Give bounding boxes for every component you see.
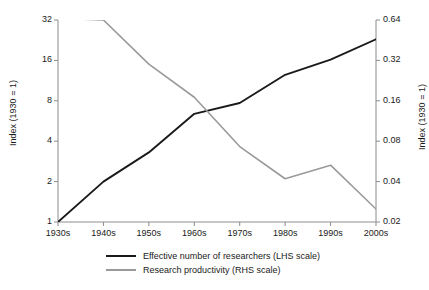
right-tick-label-1: 0.32 (383, 55, 417, 64)
right-tick-label-2: 0.16 (383, 96, 417, 105)
x-tick-label-3: 1960s (172, 229, 216, 238)
right-tick-label-3: 0.08 (383, 136, 417, 145)
legend-label-0: Effective number of researchers (LHS sca… (143, 251, 320, 261)
right-tick-label-0: 0.64 (383, 15, 417, 24)
series-line-0 (58, 39, 376, 222)
right-tick-label-5: 0.02 (383, 217, 417, 226)
legend-line-icon-1 (106, 269, 136, 271)
legend-item-0: Effective number of researchers (LHS sca… (106, 249, 320, 263)
chart-figure: Index (1930 = 1) Index (1930 = 1) 321684… (0, 0, 429, 290)
chart-legend: Effective number of researchers (LHS sca… (106, 249, 320, 277)
x-tick-label-5: 1980s (263, 229, 307, 238)
legend-item-1: Research productivity (RHS scale) (106, 263, 320, 277)
left-tick-label-2: 8 (24, 96, 52, 105)
legend-line-icon-0 (106, 255, 136, 257)
left-tick-label-4: 2 (24, 177, 52, 186)
legend-label-1: Research productivity (RHS scale) (143, 265, 281, 275)
right-tick-label-4: 0.04 (383, 177, 417, 186)
left-tick-label-0: 32 (24, 15, 52, 24)
x-tick-label-4: 1970s (218, 229, 262, 238)
left-tick-label-3: 4 (24, 136, 52, 145)
x-tick-label-6: 1990s (309, 229, 353, 238)
plot-area (58, 20, 376, 222)
x-tick-label-7: 2000s (354, 229, 398, 238)
x-tick-label-2: 1950s (127, 229, 171, 238)
left-tick-label-5: 1 (24, 217, 52, 226)
left-tick-label-1: 16 (24, 55, 52, 64)
x-tick-label-0: 1930s (36, 229, 80, 238)
x-tick-label-1: 1940s (81, 229, 125, 238)
